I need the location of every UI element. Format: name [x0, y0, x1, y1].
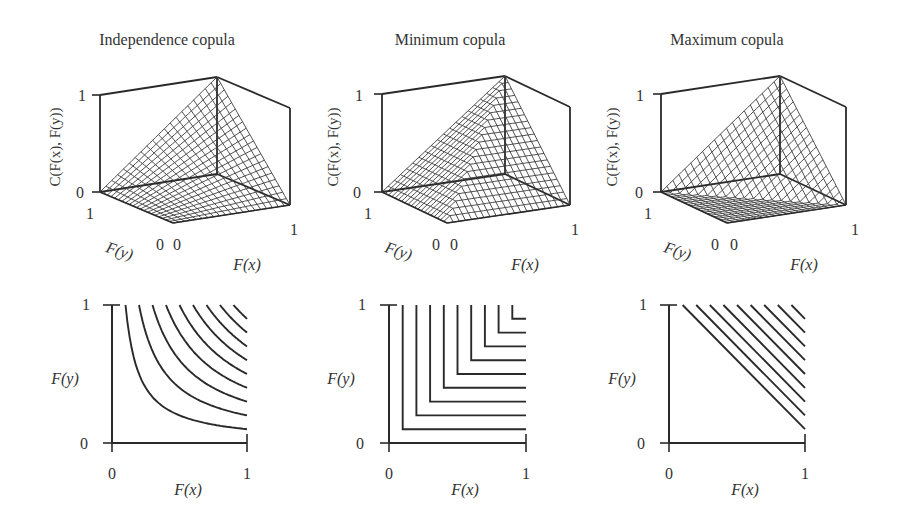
- title-minimum: Minimum copula: [395, 31, 506, 49]
- xtick-0-minimum: 0: [450, 236, 458, 253]
- c-ylabel-independence: F(y): [50, 370, 79, 388]
- c-xlabel-maximum: F(x): [730, 481, 759, 499]
- contour-plot-independence: [103, 305, 247, 452]
- ztick-0-minimum: 0: [353, 184, 361, 201]
- ytick-0-independence: 0: [156, 236, 164, 253]
- xlabel-independence: F(x): [232, 256, 261, 274]
- surface-plot-minimum: [374, 76, 570, 223]
- c-ylabel-minimum: F(y): [326, 370, 355, 388]
- c-xlabel-minimum: F(x): [450, 481, 479, 499]
- c-xtick-0-independence: 0: [108, 465, 116, 482]
- c-ytick-0-minimum: 0: [356, 435, 364, 452]
- ytick-0-minimum: 0: [432, 236, 440, 253]
- c-ylabel-maximum: F(y): [607, 370, 636, 388]
- ytick-0-maximum: 0: [711, 236, 719, 253]
- ytick-1-minimum: 1: [364, 205, 372, 222]
- ztick-0-maximum: 0: [635, 184, 643, 201]
- ylabel-independence: F(y): [103, 238, 136, 264]
- copula-figure: Independence copula Minimum copula Maxim…: [0, 0, 899, 527]
- zlabel-maximum: C(F(x), F(y)): [604, 107, 621, 186]
- c-xtick-1-maximum: 1: [801, 465, 809, 482]
- ytick-1-maximum: 1: [644, 205, 652, 222]
- c-ytick-1-maximum: 1: [639, 296, 647, 313]
- c-ytick-0-independence: 0: [80, 435, 88, 452]
- xtick-0-maximum: 0: [730, 236, 738, 253]
- c-ytick-1-minimum: 1: [358, 296, 366, 313]
- xtick-1-minimum: 1: [571, 221, 579, 238]
- contour-plot-minimum: [380, 305, 526, 452]
- ylabel-minimum: F(y): [382, 238, 415, 264]
- xtick-1-maximum: 1: [851, 221, 859, 238]
- c-xtick-1-minimum: 1: [522, 465, 530, 482]
- contour-plot-maximum: [660, 305, 805, 452]
- zlabel-independence: C(F(x), F(y)): [47, 107, 64, 186]
- xlabel-maximum: F(x): [789, 256, 818, 274]
- ztick-0-independence: 0: [76, 184, 84, 201]
- ytick-1-independence: 1: [86, 205, 94, 222]
- surface-plot-independence: [92, 77, 290, 223]
- zlabel-minimum: C(F(x), F(y)): [325, 107, 342, 186]
- ylabel-maximum: F(y): [661, 238, 694, 264]
- ztick-1-independence: 1: [78, 87, 86, 104]
- ztick-1-minimum: 1: [355, 87, 363, 104]
- c-ytick-1-independence: 1: [82, 296, 90, 313]
- xtick-1-independence: 1: [290, 221, 298, 238]
- c-ytick-0-maximum: 0: [637, 435, 645, 452]
- c-xtick-0-minimum: 0: [385, 465, 393, 482]
- c-xtick-0-maximum: 0: [665, 465, 673, 482]
- c-xlabel-independence: F(x): [173, 481, 202, 499]
- title-maximum: Maximum copula: [670, 31, 783, 49]
- ztick-1-maximum: 1: [636, 87, 644, 104]
- xtick-0-independence: 0: [173, 236, 181, 253]
- c-xtick-1-independence: 1: [243, 465, 251, 482]
- xlabel-minimum: F(x): [510, 256, 539, 274]
- title-independence: Independence copula: [99, 31, 234, 49]
- surface-plot-maximum: [653, 76, 846, 223]
